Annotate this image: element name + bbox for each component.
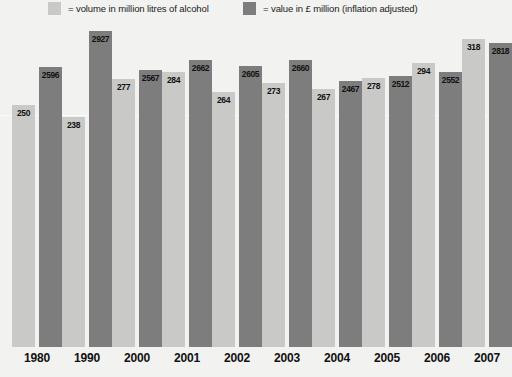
- bar-value-label: 278: [362, 81, 385, 91]
- bar-value-label: 238: [62, 120, 85, 130]
- bar-value-label: 2552: [439, 75, 462, 85]
- bar-group: 3182818: [462, 18, 512, 347]
- x-axis-tick-label: 1990: [62, 351, 112, 365]
- bar-volume: 284: [162, 72, 185, 347]
- bar-value-label: 2467: [339, 84, 362, 94]
- x-axis-tick-label: 2003: [262, 351, 312, 365]
- x-axis-tick-label: 2006: [412, 351, 462, 365]
- bar-group: 2672467: [312, 18, 362, 347]
- x-axis-tick-label: 2002: [212, 351, 262, 365]
- x-axis-tick-label: 2001: [162, 351, 212, 365]
- bar-value: 2662: [189, 60, 212, 347]
- chart-legend: = volume in million litres of alcohol = …: [0, 0, 508, 18]
- bar-group: 2942552: [412, 18, 462, 347]
- bar-group: 2502596: [12, 18, 62, 347]
- x-axis-tick-label: 2000: [112, 351, 162, 365]
- bar-volume: 277: [112, 79, 135, 347]
- bar-value-label: 264: [212, 95, 235, 105]
- bar-group: 2382927: [62, 18, 112, 347]
- bar-volume: 294: [412, 63, 435, 347]
- bar-value-label: 284: [162, 75, 185, 85]
- x-axis: 1980199020002001200220032004200520062007: [0, 347, 508, 377]
- bar-value-label: 273: [262, 86, 285, 96]
- bar-value: 2467: [339, 81, 362, 347]
- bar-value: 2512: [389, 76, 412, 347]
- bar-volume: 238: [62, 117, 85, 347]
- bar-value: 2552: [439, 72, 462, 347]
- bar-value: 2605: [239, 66, 262, 347]
- bar-value-label: 2818: [489, 46, 512, 56]
- bar-group: 2772567: [112, 18, 162, 347]
- x-axis-tick-label: 2007: [462, 351, 512, 365]
- x-axis-tick-label: 1980: [12, 351, 62, 365]
- bar-value-label: 277: [112, 82, 135, 92]
- bar-volume: 250: [12, 105, 35, 347]
- bar-value: 2567: [139, 70, 162, 347]
- bar-group: 2842662: [162, 18, 212, 347]
- bar-value-label: 2567: [139, 73, 162, 83]
- x-axis-tick-label: 2004: [312, 351, 362, 365]
- bar-value-label: 2596: [39, 70, 62, 80]
- bar-group: 2642605: [212, 18, 262, 347]
- bar-value-label: 2512: [389, 79, 412, 89]
- bar-value: 2660: [289, 60, 312, 347]
- bar-value-label: 2662: [189, 63, 212, 73]
- chart-plot-area: 2502596238292727725672842662264260527326…: [0, 18, 508, 347]
- legend-item-volume: = volume in million litres of alcohol: [48, 2, 209, 15]
- legend-item-value: = value in £ million (inflation adjusted…: [243, 2, 418, 15]
- bar-volume: 273: [262, 83, 285, 347]
- bar-group: 2782512: [362, 18, 412, 347]
- x-axis-tick-label: 2005: [362, 351, 412, 365]
- bar-value-label: 2927: [89, 34, 112, 44]
- bar-value-label: 2660: [289, 63, 312, 73]
- bar-value: 2818: [489, 43, 512, 347]
- legend-swatch-value-icon: [243, 2, 256, 15]
- bar-value-label: 294: [412, 66, 435, 76]
- bar-value: 2596: [39, 67, 62, 347]
- bar-volume: 264: [212, 92, 235, 347]
- bar-group: 2732660: [262, 18, 312, 347]
- legend-swatch-volume-icon: [48, 2, 61, 15]
- bar-value-label: 250: [12, 108, 35, 118]
- legend-label-volume: = volume in million litres of alcohol: [68, 3, 209, 14]
- bar-volume: 318: [462, 39, 485, 347]
- bar-value: 2927: [89, 31, 112, 347]
- bar-volume: 267: [312, 89, 335, 347]
- bar-value-label: 267: [312, 92, 335, 102]
- bar-volume: 278: [362, 78, 385, 347]
- bar-value-label: 318: [462, 42, 485, 52]
- bar-value-label: 2605: [239, 69, 262, 79]
- legend-label-value: = value in £ million (inflation adjusted…: [263, 3, 418, 14]
